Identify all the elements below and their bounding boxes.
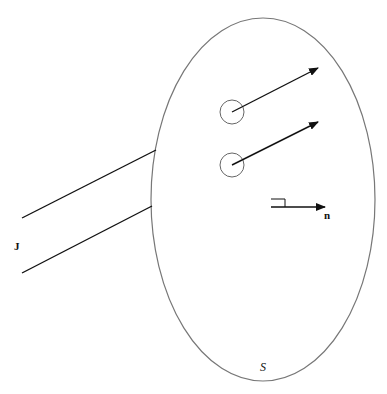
surface-label: S [260,360,266,374]
loop-arrow-1 [232,68,318,112]
normal-label: n [324,209,330,221]
diagram-canvas: J n S [0,0,387,394]
current-tube-upper-line [22,150,156,218]
loop-arrow-2 [232,122,318,165]
right-angle-mark [271,199,285,207]
current-label: J [14,240,20,252]
current-tube-lower-line [22,206,152,273]
surface-ellipse [151,18,375,381]
